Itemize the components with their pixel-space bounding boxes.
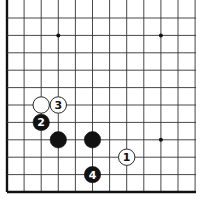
move-number-label: 4 — [89, 169, 97, 182]
star-point-icon — [159, 33, 163, 37]
move-number-label: 2 — [37, 116, 45, 129]
white-stone — [33, 97, 49, 113]
star-point-icon — [159, 138, 163, 142]
black-stone-icon — [50, 132, 66, 148]
black-stone: 4 — [84, 166, 100, 182]
white-stone: 1 — [119, 149, 135, 165]
go-board: 3214 — [0, 0, 200, 201]
star-point-icon — [56, 33, 60, 37]
black-stone: 2 — [33, 114, 49, 130]
move-number-label: 1 — [123, 151, 131, 164]
white-stone-icon — [33, 97, 49, 113]
board-grid — [7, 0, 196, 192]
move-number-label: 3 — [54, 99, 62, 112]
black-stone — [50, 132, 66, 148]
black-stone-icon — [84, 132, 100, 148]
white-stone: 3 — [50, 97, 66, 113]
black-stone — [84, 132, 100, 148]
